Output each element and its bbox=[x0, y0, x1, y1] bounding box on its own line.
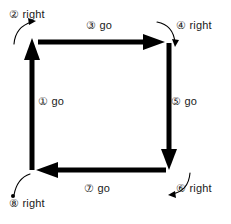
step-label-3-go: ③ go bbox=[86, 19, 112, 32]
step-label-2-right: ② right bbox=[9, 8, 45, 21]
segment-arrow-step-7-left bbox=[36, 162, 166, 178]
step-label-6-right: ⑥ right bbox=[176, 182, 212, 195]
turn-arrow-step-8 bbox=[11, 174, 30, 198]
step-label-5-go: ⑤ go bbox=[171, 95, 197, 108]
step-label-7-go: ⑦ go bbox=[84, 182, 110, 195]
diagram-canvas: ① go ② right ③ go ④ right ⑤ go ⑥ right ⑦… bbox=[0, 0, 231, 224]
step-label-1-go: ① go bbox=[38, 95, 64, 108]
segment-arrow-step-3-right bbox=[38, 34, 165, 50]
step-label-8-right: ⑧ right bbox=[9, 197, 45, 210]
step-label-4-right: ④ right bbox=[176, 19, 212, 32]
